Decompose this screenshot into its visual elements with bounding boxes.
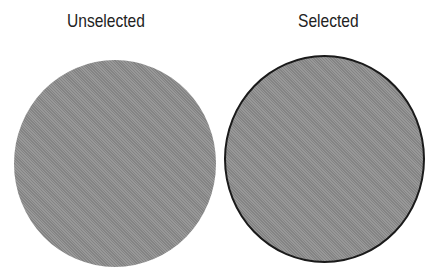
selected-circle[interactable] — [224, 55, 425, 263]
selected-label: Selected — [298, 10, 359, 32]
unselected-circle[interactable] — [14, 60, 216, 267]
unselected-label: Unselected — [67, 10, 145, 32]
